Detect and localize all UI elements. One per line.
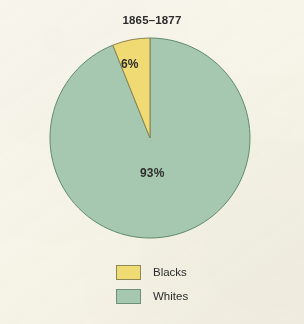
pie-svg	[0, 0, 304, 260]
legend-swatch-whites	[116, 289, 141, 304]
legend-label-whites: Whites	[153, 290, 188, 302]
legend-label-blacks: Blacks	[153, 266, 187, 278]
legend-item-whites[interactable]: Whites	[116, 284, 246, 308]
pie-slice-label-blacks: 6%	[121, 57, 139, 71]
pie-slice-label-whites: 93%	[140, 166, 165, 180]
chart-legend: Blacks Whites	[116, 260, 246, 308]
pie-chart-figure: 1865–1877 6% 93% Blacks Whites	[0, 0, 304, 324]
legend-swatch-blacks	[116, 265, 141, 280]
pie-plot-area: 6% 93%	[0, 0, 304, 260]
legend-item-blacks[interactable]: Blacks	[116, 260, 246, 284]
